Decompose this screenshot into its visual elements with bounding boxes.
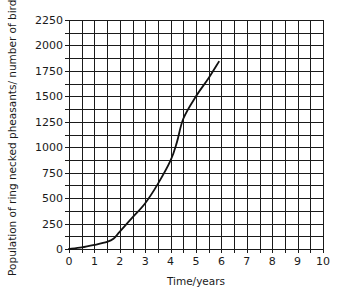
y-tick-label: 1000 xyxy=(35,141,63,154)
y-tick-label: 2000 xyxy=(35,39,63,52)
x-tick-label: 1 xyxy=(91,255,98,268)
y-axis-ticks: 0250500750100012501500175020002250 xyxy=(35,14,63,256)
y-tick-label: 250 xyxy=(42,218,63,231)
y-axis-label: Population of ring necked pheasants/ num… xyxy=(6,0,18,276)
y-tick-label: 1500 xyxy=(35,90,63,103)
chart-grid xyxy=(65,20,324,253)
y-tick-label: 0 xyxy=(56,243,63,256)
x-axis-label: Time/years xyxy=(166,275,225,287)
population-growth-chart: 0250500750100012501500175020002250 01234… xyxy=(0,0,343,296)
y-tick-label: 750 xyxy=(42,167,63,180)
x-tick-label: 8 xyxy=(269,255,276,268)
x-tick-label: 0 xyxy=(66,255,73,268)
x-tick-label: 10 xyxy=(316,255,330,268)
x-tick-label: 5 xyxy=(193,255,200,268)
x-tick-label: 4 xyxy=(167,255,174,268)
y-tick-label: 2250 xyxy=(35,14,63,27)
x-tick-label: 2 xyxy=(116,255,123,268)
y-tick-label: 500 xyxy=(42,192,63,205)
x-tick-label: 9 xyxy=(294,255,301,268)
y-tick-label: 1750 xyxy=(35,65,63,78)
x-axis-ticks: 012345678910 xyxy=(66,255,331,268)
x-tick-label: 7 xyxy=(243,255,250,268)
x-tick-label: 3 xyxy=(142,255,149,268)
y-tick-label: 1250 xyxy=(35,116,63,129)
x-tick-label: 6 xyxy=(218,255,225,268)
